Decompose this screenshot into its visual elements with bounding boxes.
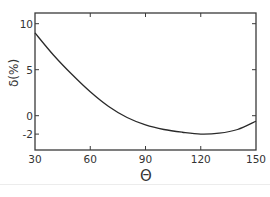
x-axis-ticks: 306090120150 bbox=[28, 13, 266, 165]
x-tick-label: 30 bbox=[28, 153, 41, 165]
x-tick-label: 60 bbox=[84, 153, 97, 165]
x-tick-label: 120 bbox=[191, 153, 211, 165]
y-tick-label: 0 bbox=[26, 110, 33, 122]
line-chart: 306090120150 1050-2 Θ δ(%) bbox=[0, 0, 270, 197]
data-curve bbox=[35, 33, 256, 134]
plot-frame bbox=[35, 13, 256, 150]
divider-line bbox=[0, 184, 270, 185]
x-tick-label: 150 bbox=[246, 153, 266, 165]
y-tick-label: 5 bbox=[26, 64, 33, 76]
y-tick-label: -2 bbox=[23, 128, 33, 140]
x-tick-label: 90 bbox=[139, 153, 152, 165]
y-tick-label: 10 bbox=[20, 18, 33, 30]
x-axis-title: Θ bbox=[140, 167, 152, 185]
y-axis-title: δ(%) bbox=[7, 59, 21, 87]
